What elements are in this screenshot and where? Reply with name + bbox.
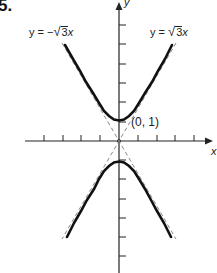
y-axis — [116, 2, 127, 273]
y-axis-arrow-icon — [116, 2, 123, 10]
x-axis-arrow-icon — [205, 138, 213, 145]
hyperbola-plot — [0, 0, 217, 273]
